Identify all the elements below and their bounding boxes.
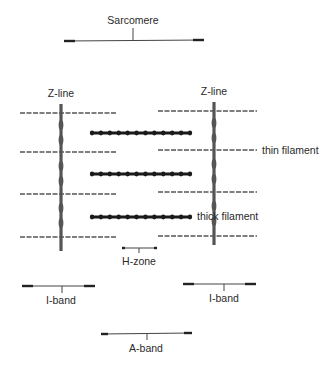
myosin-head — [170, 215, 174, 220]
myosin-head — [90, 215, 94, 220]
z-line-left-label: Z-line — [48, 87, 74, 99]
thick-filament-label: thick filament — [197, 210, 258, 222]
myosin-head — [188, 131, 192, 136]
z-line-right-label: Z-line — [201, 85, 227, 97]
myosin-head — [152, 215, 156, 220]
myosin-head — [134, 172, 138, 177]
myosin-head — [117, 131, 121, 136]
myosin-head — [90, 172, 94, 177]
thin-filament-label: thin filament — [262, 144, 319, 156]
myosin-head — [161, 131, 165, 136]
i-band-right-label: I-band — [209, 292, 239, 304]
myosin-head — [188, 215, 192, 220]
myosin-head — [99, 131, 103, 136]
myosin-head — [134, 215, 138, 220]
z-line-right — [212, 102, 217, 245]
i-band-left-bracket — [22, 286, 95, 293]
a-band-label: A-band — [129, 342, 163, 354]
myosin-head — [108, 215, 112, 220]
z-line-left — [59, 104, 64, 251]
myosin-head — [108, 172, 112, 177]
myosin-head — [143, 131, 147, 136]
i-band-right-bracket — [183, 284, 256, 291]
myosin-head — [143, 215, 147, 220]
myosin-head — [125, 172, 129, 177]
myosin-head — [99, 172, 103, 177]
myosin-head — [152, 131, 156, 136]
myosin-head — [170, 131, 174, 136]
myosin-head — [125, 215, 129, 220]
myosin-head — [161, 215, 165, 220]
thick-filaments — [90, 131, 192, 220]
myosin-head — [108, 131, 112, 136]
myosin-head — [152, 172, 156, 177]
i-band-left-label: I-band — [46, 294, 76, 306]
myosin-head — [143, 172, 147, 177]
sarcomere-label: Sarcomere — [107, 14, 159, 26]
sarcomere-diagram: Sarcomere Z-line Z-line — [0, 0, 333, 368]
myosin-head — [117, 215, 121, 220]
myosin-head — [134, 131, 138, 136]
myosin-head — [179, 215, 183, 220]
myosin-head — [179, 131, 183, 136]
myosin-head — [170, 172, 174, 177]
a-band-bracket — [101, 333, 192, 340]
sarcomere-bracket — [64, 28, 204, 41]
myosin-head — [188, 172, 192, 177]
myosin-head — [125, 131, 129, 136]
h-zone-bracket — [122, 248, 157, 253]
myosin-head — [90, 131, 94, 136]
myosin-head — [179, 172, 183, 177]
myosin-head — [99, 215, 103, 220]
myosin-head — [117, 172, 121, 177]
h-zone-label: H-zone — [122, 255, 156, 267]
myosin-head — [161, 172, 165, 177]
